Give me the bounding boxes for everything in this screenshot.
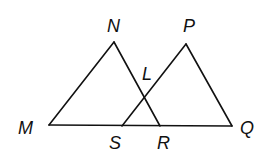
segment-pq [186,44,232,126]
segment-nr [114,42,160,126]
segment-mn [49,42,114,125]
label-n: N [107,16,121,36]
label-r: R [157,133,170,153]
label-s: S [109,133,121,153]
triangle-diagram: M N P L S R Q [0,0,268,163]
label-m: M [18,118,33,138]
segment-mq-baseline [49,125,232,126]
label-p: P [183,16,195,36]
label-q: Q [240,118,254,138]
label-l: L [142,64,152,84]
